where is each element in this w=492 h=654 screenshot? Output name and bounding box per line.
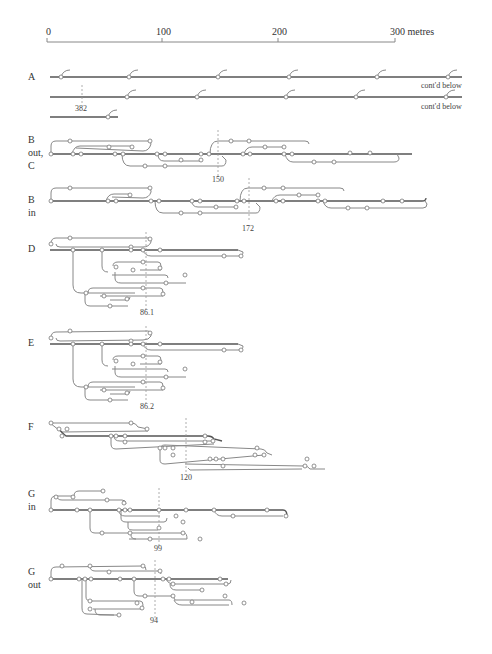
marker-86-1: 86.1 <box>140 308 154 317</box>
marker-86-2: 86.2 <box>140 402 154 411</box>
diagram-canvas: 0 100 200 300 metres A cont'd below 382 … <box>0 0 492 654</box>
section-label-b-out-line3: C <box>28 160 35 171</box>
section-label-d: D <box>28 243 35 254</box>
section-b-out-c: B out, C 150 <box>28 130 412 184</box>
marker-120: 120 <box>180 473 192 482</box>
scale-tick-100: 100 <box>156 26 171 37</box>
section-label-e: E <box>28 337 34 348</box>
section-label-b-in-line2: in <box>28 207 36 218</box>
section-d: D 86.1 <box>28 232 243 317</box>
section-f: F 120 <box>28 418 325 482</box>
section-g-in: G in 99 <box>28 488 288 553</box>
marker-94: 94 <box>150 616 158 625</box>
contd-below-2: cont'd below <box>421 102 462 111</box>
section-label-g-in-line1: G <box>28 488 35 499</box>
section-label-a: A <box>28 71 36 82</box>
section-a: A cont'd below 382 cont'd below <box>28 70 462 119</box>
section-label-b-out-line2: out, <box>28 147 43 158</box>
marker-99: 99 <box>154 544 162 553</box>
scale-tick-200: 200 <box>272 26 287 37</box>
marker-150: 150 <box>212 175 224 184</box>
scale-tick-0: 0 <box>46 26 51 37</box>
section-label-g-out-line1: G <box>28 566 35 577</box>
section-label-g-out-line2: out <box>28 579 41 590</box>
section-e: E 86.2 <box>28 326 243 411</box>
scale-tick-300: 300 metres <box>390 26 434 37</box>
section-label-f: F <box>28 421 34 432</box>
section-g-out: G out 94 <box>28 560 246 625</box>
section-label-b-in-line1: B <box>28 194 35 205</box>
scale-bar: 0 100 200 300 metres <box>46 26 434 42</box>
contd-below-1: cont'd below <box>421 81 462 90</box>
section-b-in: B in 172 <box>28 178 427 233</box>
section-label-b-out-line1: B <box>28 134 35 145</box>
marker-172: 172 <box>242 224 254 233</box>
marker-382: 382 <box>75 104 87 113</box>
section-label-g-in-line2: in <box>28 501 36 512</box>
